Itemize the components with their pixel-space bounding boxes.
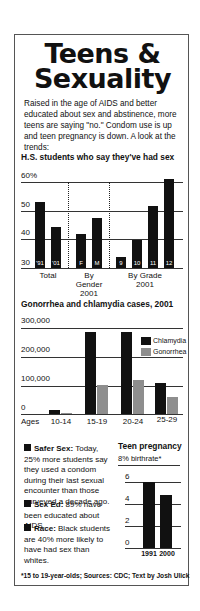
chart1-bar-female: F [76, 234, 86, 268]
chart2-xlabel: 25-29 [154, 415, 180, 424]
chart3-bar-1991 [143, 482, 155, 548]
chart3-tick-4: 4 [125, 494, 129, 503]
chart2-tick-300000: 300,000 [21, 316, 50, 325]
chart2-bar-gonorrhea-20-24 [133, 380, 144, 414]
chart2-bar-chlamydia-10-14 [49, 410, 60, 414]
chart1-tick-50: 50 [21, 200, 30, 209]
chart1-tick-40: 40 [21, 228, 30, 237]
chart2-tick-200000: 200,000 [21, 345, 50, 354]
chart2-bar-gonorrhea-10-14 [61, 413, 72, 414]
chart2-bar-chlamydia-25-29 [155, 383, 166, 414]
legend-swatch-gonorrhea [141, 348, 151, 356]
legend-label-gonorrhea: Gonorrhea [153, 348, 186, 355]
chart2-tick-0: 0 [21, 403, 25, 412]
chart3-subtitle: 8% birthrate* [118, 454, 161, 463]
chart1-gridline [21, 239, 183, 240]
chart1-title: H.S. students who say they've had sex [21, 152, 174, 162]
chart1-group-gender: By Gender2001 [70, 271, 108, 298]
chart1-bar-grade-9: 9 [116, 257, 126, 268]
chart2-bar-gonorrhea-15-19 [97, 385, 108, 414]
chart1-divider [68, 182, 69, 268]
title-line-2: Sexuality [15, 66, 190, 92]
chart3-subtitle-rule [118, 465, 180, 466]
chart3-bar-2000 [160, 495, 172, 548]
chart2-xlabel: 20-24 [120, 417, 146, 426]
chart3-tick-0: 0 [125, 538, 129, 547]
intro-text: Raised in the age of AIDS and better edu… [24, 98, 186, 153]
chart2-ages-label: Ages [21, 417, 39, 426]
chart1-bar-grade-12: 12 [164, 179, 174, 268]
footnote: *15 to 19-year-olds; Sources: CDC; Text … [21, 572, 189, 579]
chart1-bar-male: M [92, 218, 102, 268]
chart2-tick-100000: 100,000 [21, 374, 50, 383]
chart3-xlabel: 1991 [139, 550, 159, 557]
legend-label-chlamydia: Chlamydia [153, 337, 186, 344]
chart1-bar-grade-11: 11 [148, 206, 158, 268]
chart2-title: Gonorrhea and chlamydia cases, 2001 [21, 299, 173, 309]
bullet-square-icon [24, 500, 31, 507]
infographic-frame: Teens & Sexuality Raised in the age of A… [14, 34, 189, 586]
chart1-gridline [21, 182, 183, 183]
chart1-bar-total-01: '01 [51, 227, 61, 268]
bullet-safer-sex: Safer Sex: Today, 25% more students say … [24, 444, 116, 507]
chart1-bar-total-91: '91 [35, 202, 45, 268]
chart3-title: Teen pregnancy [118, 441, 182, 451]
bullet-race: Race: Black students are 40% more likely… [24, 524, 116, 566]
chart2-bar-chlamydia-20-24 [121, 332, 132, 414]
chart1-tick-60: 60% [21, 171, 37, 180]
chart2-bar-gonorrhea-25-29 [167, 397, 178, 414]
chart3-tick-6: 6 [125, 472, 129, 481]
chart2-xlabel: 15-19 [84, 417, 110, 426]
chart1-divider [109, 182, 110, 268]
chart1-bar-grade-10: 10 [132, 240, 142, 268]
bullet-square-icon [24, 444, 31, 451]
chart1-baseline [21, 268, 183, 269]
chart2-gridline [21, 357, 183, 358]
chart1-group-grade: By Grade2001 [115, 271, 175, 289]
legend-swatch-chlamydia [141, 337, 151, 345]
chart3-xlabel: 2000 [157, 550, 177, 557]
chart1-tick-30: 30 [21, 258, 30, 267]
chart2-xlabel: 10-14 [49, 417, 73, 426]
chart1-gridline [21, 211, 183, 212]
chart2-bar-chlamydia-15-19 [85, 332, 96, 414]
chart3-tick-2: 2 [125, 516, 129, 525]
chart1-group-total: Total [31, 271, 65, 280]
chart2-gridline [21, 328, 183, 329]
chart3-baseline [125, 548, 181, 549]
bullet-square-icon [24, 524, 31, 531]
